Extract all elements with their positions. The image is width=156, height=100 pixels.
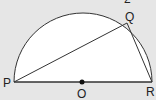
partial-label: 2 (124, 0, 131, 6)
label-p: P (3, 76, 11, 90)
label-r: R (146, 85, 155, 99)
label-o: O (77, 87, 86, 100)
center-point-o (80, 80, 85, 85)
semicircle-diagram: P Q R O 2 (0, 0, 156, 100)
label-q: Q (125, 10, 134, 24)
